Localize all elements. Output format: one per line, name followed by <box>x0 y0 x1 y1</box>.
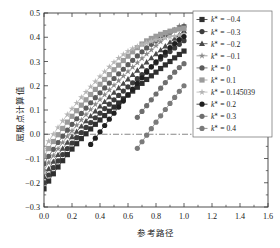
data-point-marker <box>163 107 168 112</box>
data-point-marker <box>158 54 163 59</box>
data-point-marker <box>83 125 88 130</box>
data-point-marker <box>69 140 74 145</box>
data-point-marker <box>199 77 204 82</box>
data-point-marker <box>102 85 107 90</box>
y-tick-label: 0.2 <box>30 82 40 91</box>
data-point-marker <box>60 152 65 157</box>
data-point-marker <box>60 134 65 139</box>
data-point-marker <box>111 104 116 109</box>
data-point-marker <box>125 62 130 67</box>
data-point-marker <box>135 115 140 120</box>
data-point-marker <box>121 58 126 63</box>
data-point-marker <box>65 146 70 151</box>
data-point-marker <box>144 133 149 138</box>
chart-legend: k∗ = −0.4k∗ = −0.3k∗ = −0.2k∗ = −0.1k∗ =… <box>193 11 272 137</box>
data-point-marker <box>153 59 158 64</box>
data-point-marker <box>116 63 121 68</box>
data-point-marker <box>177 37 182 42</box>
data-point-marker <box>167 59 172 64</box>
data-point-marker <box>97 82 102 87</box>
y-tick-label: 0.1 <box>30 106 40 115</box>
data-point-marker <box>46 172 51 177</box>
data-point-marker <box>93 95 98 100</box>
data-point-marker <box>83 131 88 136</box>
data-point-marker <box>130 87 135 92</box>
x-tick-label: 0.2 <box>67 212 77 221</box>
data-point-marker <box>116 93 121 98</box>
data-point-marker <box>172 27 177 32</box>
data-point-marker <box>121 98 126 103</box>
data-point-marker <box>79 103 84 108</box>
data-point-marker <box>55 158 60 163</box>
data-point-marker <box>172 41 177 46</box>
data-point-marker <box>172 55 177 60</box>
data-point-marker <box>153 91 158 96</box>
data-point-marker <box>41 180 46 185</box>
data-point-marker <box>199 17 204 22</box>
data-point-marker <box>177 89 182 94</box>
data-point-marker <box>167 101 172 106</box>
data-point-marker <box>125 92 130 97</box>
data-point-marker <box>83 105 88 110</box>
data-point-marker <box>158 113 163 118</box>
data-point-marker <box>97 90 102 95</box>
y-tick-label: 0.3 <box>30 58 40 67</box>
data-point-marker <box>163 80 168 85</box>
data-point-marker <box>51 171 56 176</box>
data-point-marker <box>167 45 172 50</box>
data-point-marker <box>65 120 70 125</box>
data-point-marker <box>130 58 135 63</box>
data-point-marker <box>163 62 168 67</box>
data-point-marker <box>149 97 154 102</box>
data-point-marker <box>199 102 204 107</box>
data-point-marker <box>107 102 112 107</box>
data-point-marker <box>88 92 93 97</box>
data-point-marker <box>69 122 74 127</box>
data-point-marker <box>97 117 102 122</box>
data-point-marker <box>79 111 84 116</box>
y-tick-label: 0.5 <box>30 9 40 18</box>
data-point-marker <box>55 164 60 169</box>
x-tick-label: 0.6 <box>123 212 133 221</box>
data-point-marker <box>46 178 51 183</box>
y-tick-label: −0.2 <box>25 179 40 188</box>
data-point-marker <box>199 29 204 34</box>
data-point-marker <box>177 42 182 47</box>
data-point-marker <box>107 117 112 122</box>
data-point-marker <box>167 75 172 80</box>
data-point-marker <box>74 116 79 121</box>
legend-label: k∗ = 0 <box>211 63 230 73</box>
data-point-marker <box>69 114 74 119</box>
data-point-marker <box>74 108 79 113</box>
data-point-marker <box>181 83 186 88</box>
chart-figure: 0.00.20.40.60.81.01.21.41.6−0.3−0.2−0.10… <box>0 0 280 248</box>
y-tick-label: 0.4 <box>30 33 40 42</box>
data-point-marker <box>163 49 168 54</box>
data-point-marker <box>139 75 144 80</box>
data-point-marker <box>65 152 70 157</box>
data-point-marker <box>116 104 121 109</box>
data-point-marker <box>93 122 98 127</box>
data-point-marker <box>135 146 140 151</box>
data-point-marker <box>144 45 149 50</box>
data-point-marker <box>135 53 140 58</box>
data-point-marker <box>153 70 158 75</box>
data-point-marker <box>111 67 116 72</box>
data-point-marker <box>144 77 149 82</box>
data-point-marker <box>125 84 130 89</box>
data-point-marker <box>41 153 46 158</box>
x-tick-label: 1.0 <box>179 212 189 221</box>
data-point-marker <box>51 147 56 152</box>
data-point-marker <box>163 30 168 35</box>
data-point-marker <box>139 49 144 54</box>
data-point-marker <box>88 126 93 131</box>
data-point-marker <box>181 34 186 39</box>
data-point-marker <box>181 61 186 66</box>
data-point-marker <box>139 81 144 86</box>
x-tick-label: 1.2 <box>207 212 217 221</box>
data-point-marker <box>172 70 177 75</box>
data-point-marker <box>125 54 130 59</box>
data-point-marker <box>111 76 116 81</box>
data-point-marker <box>121 67 126 72</box>
data-point-marker <box>149 64 154 69</box>
